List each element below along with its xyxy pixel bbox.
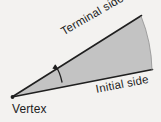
angle-figure: Vertex Terminal side Initial side: [0, 0, 161, 122]
vertex-point-marker: [11, 95, 15, 99]
vertex-label: Vertex: [12, 103, 47, 115]
